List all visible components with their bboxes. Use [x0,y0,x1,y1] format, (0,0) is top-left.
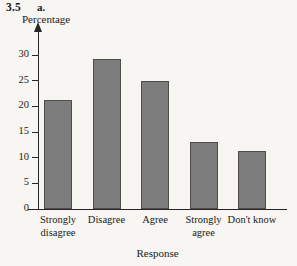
y-tick-label-5: 5 [9,176,29,187]
bar [141,81,169,209]
y-tick-25 [32,80,38,81]
y-tick-5 [32,183,38,184]
bar-chart-plot: 051015202530 StronglydisagreeDisagreeAgr… [0,0,297,266]
category-label-line: Don't know [217,214,287,227]
y-tick-label-15: 15 [9,125,29,136]
bar [93,59,121,209]
y-tick-15 [32,132,38,133]
category-label-line: disagree [23,227,93,240]
x-axis-line [28,209,287,210]
y-tick-label-0: 0 [9,202,29,213]
y-tick-label-10: 10 [9,151,29,162]
y-tick-label-20: 20 [9,99,29,110]
bar [238,151,266,209]
bar [44,100,72,209]
y-tick-0 [32,209,38,210]
figure-container: 3.5 a. Percentage 051015202530 Stronglyd… [0,0,297,266]
x-axis-label: Response [0,247,297,259]
y-axis-line [38,30,39,210]
y-tick-label-25: 25 [9,74,29,85]
bar [190,142,218,209]
y-tick-20 [32,106,38,107]
y-tick-30 [32,55,38,56]
category-label: Don't know [217,214,287,227]
category-label-line: agree [169,227,239,240]
y-tick-label-30: 30 [9,48,29,59]
y-tick-10 [32,157,38,158]
